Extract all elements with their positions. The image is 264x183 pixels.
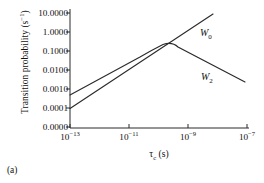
series-label-w0-sub: 0 — [208, 33, 212, 41]
x-tick-exp: −9 — [189, 130, 196, 137]
panel-caption: (a) — [7, 165, 17, 175]
x-tick-label: 10−11 — [106, 130, 152, 142]
x-axis-title: τc (s) — [70, 148, 248, 161]
x-tick-base: 10 — [119, 132, 128, 142]
x-tick-base: 10 — [180, 132, 189, 142]
x-tick-exp: −11 — [129, 130, 139, 137]
figure-panel: Transition probability (s−1) 10.0000 1.0… — [0, 0, 264, 183]
x-tick-label: 10−13 — [47, 130, 93, 142]
x-tick-label: 10−9 — [165, 130, 211, 142]
series-label-w2: W2 — [201, 71, 213, 85]
x-axis-title-unit: (s) — [156, 148, 169, 159]
series-label-w2-sub: 2 — [209, 77, 213, 85]
series-label-w0: W0 — [200, 27, 212, 41]
x-tick-label: 10−7 — [224, 130, 264, 142]
x-tick-base: 10 — [239, 132, 248, 142]
x-tick-exp: −13 — [69, 130, 79, 137]
x-tick-exp: −7 — [248, 130, 255, 137]
